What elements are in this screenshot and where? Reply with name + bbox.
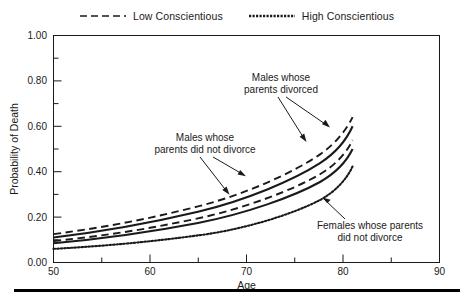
annotation-males-not-divorced-line2: parents did not divorce <box>154 144 256 155</box>
y-tick-label-0: 0.00 <box>28 257 48 268</box>
y-tick-label-4: 0.80 <box>28 75 48 86</box>
annotation-males-divorced-line1: Males whose <box>252 72 311 83</box>
x-axis-major-ticks <box>54 255 440 263</box>
annotation-females-not-divorced-arrow <box>322 198 345 220</box>
y-tick-label-5: 1.00 <box>28 30 48 41</box>
x-tick-label-0: 50 <box>48 266 60 277</box>
annotation-females-not-divorced-line2: did not divorce <box>337 232 402 243</box>
chart-plot: 0.00 0.20 0.40 0.60 0.80 1.00 Probabilit… <box>0 0 474 303</box>
figure-container: Low Conscientious High Conscientious <box>0 0 474 303</box>
y-tick-label-3: 0.60 <box>28 121 48 132</box>
annotation-females-not-divorced-line1: Females whose parents <box>317 220 423 231</box>
bottom-divider-rule <box>14 289 460 292</box>
series-line-females-not-divorced <box>54 166 353 249</box>
y-tick-label-2: 0.40 <box>28 166 48 177</box>
annotation-males-divorced-arrows <box>278 97 330 142</box>
x-tick-label-1: 60 <box>144 266 156 277</box>
y-axis-title: Probability of Death <box>8 103 20 195</box>
annotation-males-not-divorced-line1: Males whose <box>176 132 235 143</box>
annotation-males-divorced-line2: parents divorced <box>244 84 318 95</box>
series-line-males-not-divorced-low-conscientious <box>54 140 353 241</box>
y-axis-minor-ticks <box>54 58 59 240</box>
x-tick-label-3: 80 <box>337 266 349 277</box>
annotation-males-not-divorced-arrows <box>200 157 246 195</box>
x-tick-label-2: 70 <box>241 266 253 277</box>
y-tick-label-1: 0.20 <box>28 212 48 223</box>
x-tick-label-4: 90 <box>434 266 446 277</box>
